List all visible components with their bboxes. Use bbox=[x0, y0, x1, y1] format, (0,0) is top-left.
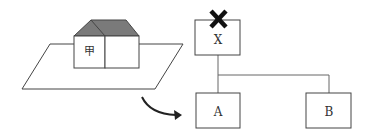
tree-connectors bbox=[218, 55, 329, 93]
diagram-svg: 甲 X A B bbox=[0, 0, 372, 138]
node-a-label: A bbox=[213, 105, 223, 119]
transition-arrow-icon bbox=[142, 97, 182, 120]
house-roof bbox=[74, 20, 139, 36]
node-b: B bbox=[306, 93, 351, 128]
node-x: X bbox=[195, 20, 240, 55]
house-label: 甲 bbox=[84, 45, 95, 58]
diagram-canvas: 甲 X A B bbox=[0, 0, 372, 138]
node-x-label: X bbox=[214, 33, 223, 47]
node-b-label: B bbox=[325, 105, 334, 119]
node-a: A bbox=[196, 93, 240, 128]
house-wall-right bbox=[105, 36, 139, 68]
house: 甲 bbox=[74, 20, 139, 68]
